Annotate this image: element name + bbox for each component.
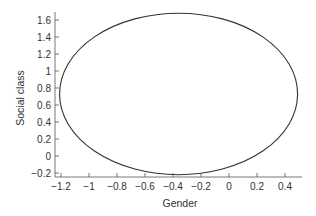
x-tick-label: 0.4 — [278, 181, 292, 192]
y-tick-label: 0.4 — [37, 117, 51, 128]
y-tick-label: −0.2 — [31, 168, 51, 179]
x-tick-label: −1 — [83, 181, 95, 192]
y-tick-label: 0.8 — [37, 83, 51, 94]
ellipse-curve — [60, 13, 298, 175]
y-axis: −0.200.20.40.60.811.21.41.6 — [31, 12, 59, 179]
y-axis-label: Social class — [14, 70, 26, 125]
plot-area — [60, 13, 298, 175]
x-axis: −1.2−1−0.8−0.6−0.4−0.200.20.4 — [51, 173, 302, 192]
x-tick-label: −0.8 — [107, 181, 127, 192]
y-tick-label: 1.6 — [37, 15, 51, 26]
x-tick-label: 0.2 — [250, 181, 264, 192]
x-tick-label: 0 — [226, 181, 232, 192]
ellipse-chart: −0.200.20.40.60.811.21.41.6 −1.2−1−0.8−0… — [0, 0, 316, 216]
y-tick-label: 0.6 — [37, 100, 51, 111]
x-tick-label: −1.2 — [51, 181, 71, 192]
x-tick-label: −0.2 — [191, 181, 211, 192]
x-tick-label: −0.6 — [135, 181, 155, 192]
y-tick-label: 0.2 — [37, 134, 51, 145]
y-tick-label: 1.2 — [37, 49, 51, 60]
x-axis-label: Gender — [162, 197, 198, 209]
y-tick-label: 1 — [45, 66, 51, 77]
x-tick-label: −0.4 — [163, 181, 183, 192]
y-tick-label: 0 — [45, 151, 51, 162]
y-tick-label: 1.4 — [37, 32, 51, 43]
